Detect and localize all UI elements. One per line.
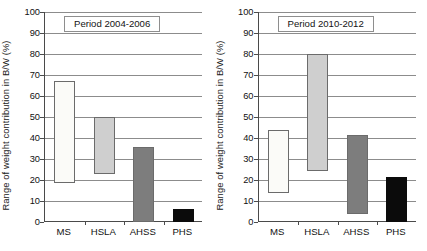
gridline [259, 117, 416, 118]
y-axis-tick-mark [254, 159, 258, 160]
y-axis-tick-mark [254, 75, 258, 76]
y-axis-title-left: Range of weight contribution in B/W (%) [0, 0, 12, 251]
y-axis-tick-mark [40, 54, 44, 55]
bar-ms [54, 81, 75, 182]
x-axis-tick-mark [85, 221, 86, 225]
y-axis-tick-mark [254, 12, 258, 13]
gridline [259, 33, 416, 34]
y-axis-tick-mark [40, 33, 44, 34]
plot-area-right [258, 12, 416, 222]
gridline [259, 12, 416, 13]
x-axis-tick-mark [164, 221, 165, 225]
y-axis-tick-label: 70 [14, 70, 40, 80]
y-axis-tick-label: 90 [14, 28, 40, 38]
bar-hsla [307, 54, 328, 171]
bar-ahss [347, 135, 368, 214]
x-axis-category-label: AHSS [130, 226, 156, 237]
bar-ms [268, 130, 289, 193]
chart-panel-right: Range of weight contribution in B/W (%) … [214, 0, 427, 251]
y-axis-tick-label: 40 [228, 133, 254, 143]
x-axis-category-label: HSLA [91, 226, 116, 237]
x-axis-category-label: HSLA [304, 226, 329, 237]
y-axis-tick-mark [40, 117, 44, 118]
gridline [259, 54, 416, 55]
y-axis-tick-label: 80 [228, 49, 254, 59]
gridline [45, 33, 202, 34]
y-axis-tick-mark [40, 138, 44, 139]
y-axis-tick-mark [254, 96, 258, 97]
y-axis-tick-mark [254, 180, 258, 181]
x-axis-category-labels-right: MSHSLAAHSSPHS [258, 226, 416, 242]
y-axis-tick-mark [254, 201, 258, 202]
y-axis-tick-mark [254, 117, 258, 118]
y-axis-tick-mark [254, 138, 258, 139]
bar-ahss [133, 147, 154, 222]
y-axis-tick-mark [40, 75, 44, 76]
y-axis-tick-label: 60 [14, 91, 40, 101]
y-axis-tick-label: 20 [228, 175, 254, 185]
y-axis-tick-labels-left: 0102030405060708090100 [14, 12, 40, 222]
y-axis-tick-label: 80 [14, 49, 40, 59]
gridline [259, 96, 416, 97]
bar-phs [386, 177, 407, 222]
y-axis-tick-label: 20 [14, 175, 40, 185]
gridline [45, 54, 202, 55]
plot-area-left [44, 12, 202, 222]
y-axis-tick-mark [40, 180, 44, 181]
bar-phs [173, 209, 194, 222]
y-axis-tick-label: 100 [14, 7, 40, 17]
gridline [45, 12, 202, 13]
x-axis-category-label: MS [270, 226, 284, 237]
figure-root: Range of weight contribution in B/W (%) … [0, 0, 427, 251]
y-axis-tick-labels-right: 0102030405060708090100 [228, 12, 254, 222]
y-axis-tick-mark [40, 222, 44, 223]
y-axis-tick-label: 90 [228, 28, 254, 38]
y-axis-tick-mark [254, 33, 258, 34]
y-axis-tick-mark [40, 201, 44, 202]
y-axis-tick-label: 40 [14, 133, 40, 143]
x-axis-tick-mark [338, 221, 339, 225]
panel-title-right: Period 2010-2012 [278, 16, 374, 32]
y-axis-tick-label: 10 [228, 196, 254, 206]
y-axis-tick-label: 60 [228, 91, 254, 101]
y-axis-tick-label: 50 [228, 112, 254, 122]
y-axis-tick-label: 50 [14, 112, 40, 122]
chart-panel-left: Range of weight contribution in B/W (%) … [0, 0, 214, 251]
x-axis-tick-mark [124, 221, 125, 225]
y-axis-tick-mark [40, 96, 44, 97]
x-axis-tick-mark [377, 221, 378, 225]
y-axis-tick-mark [40, 12, 44, 13]
gridline [259, 75, 416, 76]
x-axis-category-label: PHS [386, 226, 406, 237]
y-axis-tick-mark [254, 54, 258, 55]
bar-hsla [94, 117, 115, 174]
y-axis-tick-label: 10 [14, 196, 40, 206]
y-axis-tick-mark [254, 222, 258, 223]
x-axis-category-labels-left: MSHSLAAHSSPHS [44, 226, 202, 242]
y-axis-tick-label: 0 [14, 217, 40, 227]
y-axis-tick-label: 100 [228, 7, 254, 17]
x-axis-category-label: AHSS [343, 226, 369, 237]
gridline [45, 75, 202, 76]
y-axis-tick-label: 30 [14, 154, 40, 164]
y-axis-title-right: Range of weight contribution in B/W (%) [212, 0, 226, 251]
y-axis-tick-mark [40, 159, 44, 160]
x-axis-category-label: MS [57, 226, 71, 237]
gridline [45, 201, 202, 202]
panel-title-left: Period 2004-2006 [64, 16, 160, 32]
x-axis-category-label: PHS [172, 226, 192, 237]
y-axis-tick-label: 70 [228, 70, 254, 80]
y-axis-tick-label: 30 [228, 154, 254, 164]
x-axis-tick-mark [298, 221, 299, 225]
y-axis-tick-label: 0 [228, 217, 254, 227]
